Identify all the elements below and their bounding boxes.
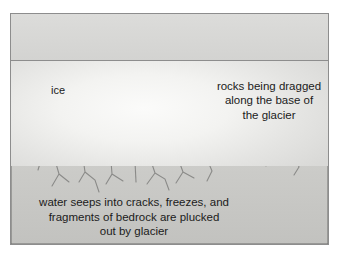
glacier-diagram-figure: ice rocks being dragged along the base o… [0,0,339,261]
rocks-dragged-line-2: along the base of [205,93,329,107]
ice-label: ice [51,84,65,98]
caption-line-1: water seeps into cracks, freezes, and [19,195,249,209]
diagram-frame: ice rocks being dragged along the base o… [10,13,329,245]
plucking-caption: water seeps into cracks, freezes, and fr… [19,195,249,238]
rocks-dragged-line-1: rocks being dragged [205,79,329,93]
rocks-dragged-line-3: the glacier [205,108,329,122]
caption-line-2: fragments of bedrock are plucked [19,210,249,224]
caption-line-3: out by glacier [19,224,249,238]
rocks-dragged-label: rocks being dragged along the base of th… [205,79,329,122]
sky-band [11,14,328,60]
